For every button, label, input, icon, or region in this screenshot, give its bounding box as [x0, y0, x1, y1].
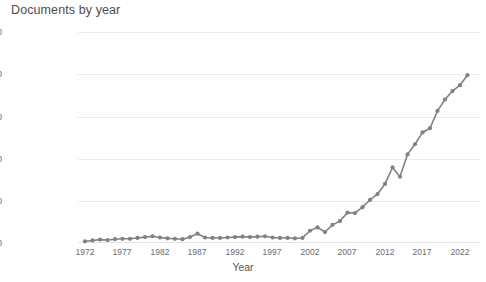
data-point [300, 236, 304, 240]
data-point [210, 236, 214, 240]
data-point [173, 237, 177, 241]
data-point [405, 152, 409, 156]
data-point [458, 83, 462, 87]
y-tick-100: 100 [0, 196, 2, 206]
data-point [278, 236, 282, 240]
x-tick-1972: 1972 [76, 247, 95, 257]
data-point [398, 175, 402, 179]
data-point [420, 130, 424, 134]
y-tick-0: 0 [0, 238, 2, 248]
x-tick-2012: 2012 [376, 247, 395, 257]
data-point [450, 89, 454, 93]
data-point [285, 236, 289, 240]
y-tick-500: 500 [0, 27, 2, 37]
y-tick-400: 400 [0, 69, 2, 79]
data-point [165, 236, 169, 240]
data-point [128, 237, 132, 241]
data-point [83, 239, 87, 243]
data-point [255, 235, 259, 239]
x-tick-2017: 2017 [413, 247, 432, 257]
x-tick-1997: 1997 [263, 247, 282, 257]
x-tick-1992: 1992 [226, 247, 245, 257]
x-tick-2022: 2022 [451, 247, 470, 257]
data-point [180, 237, 184, 241]
data-point [428, 126, 432, 130]
x-tick-2007: 2007 [338, 247, 357, 257]
data-point [390, 165, 394, 169]
data-point [360, 205, 364, 209]
data-point [383, 182, 387, 186]
data-point [225, 235, 229, 239]
data-point [315, 225, 319, 229]
data-point [465, 73, 469, 77]
data-point [150, 234, 154, 238]
data-point [113, 237, 117, 241]
series-line [85, 75, 468, 241]
data-point [323, 230, 327, 234]
data-point [270, 235, 274, 239]
data-point [248, 235, 252, 239]
data-point [143, 235, 147, 239]
chart-container: Documents by year 500 400 300 200 100 0 … [0, 0, 486, 282]
data-point [263, 234, 267, 238]
plot-area [78, 32, 480, 243]
x-tick-1987: 1987 [188, 247, 207, 257]
data-point [240, 235, 244, 239]
data-point [308, 229, 312, 233]
data-point [443, 97, 447, 101]
data-point [158, 235, 162, 239]
x-tick-2002: 2002 [301, 247, 320, 257]
data-point [188, 235, 192, 239]
y-tick-300: 300 [0, 112, 2, 122]
x-axis-title: Year [0, 261, 486, 273]
data-point [338, 219, 342, 223]
data-point [345, 211, 349, 215]
data-point [218, 236, 222, 240]
data-point [98, 238, 102, 242]
data-point [330, 223, 334, 227]
data-point [135, 236, 139, 240]
data-point [413, 142, 417, 146]
data-point [203, 235, 207, 239]
data-point [368, 198, 372, 202]
data-point [233, 235, 237, 239]
data-point [90, 238, 94, 242]
chart-title: Documents by year [11, 3, 120, 17]
data-point [105, 238, 109, 242]
y-tick-200: 200 [0, 154, 2, 164]
data-point [353, 211, 357, 215]
data-point [293, 236, 297, 240]
series-markers [83, 73, 470, 243]
data-point [195, 232, 199, 236]
data-point [435, 109, 439, 113]
x-tick-1982: 1982 [151, 247, 170, 257]
data-point [120, 237, 124, 241]
data-point [375, 192, 379, 196]
line-series [78, 32, 480, 243]
x-tick-1977: 1977 [113, 247, 132, 257]
